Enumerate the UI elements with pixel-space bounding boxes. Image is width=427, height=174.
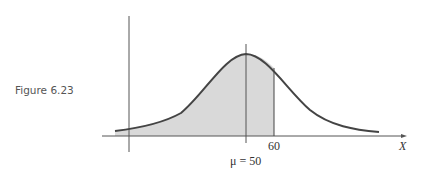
shaded-area	[115, 54, 274, 136]
tick-label-60: 60	[268, 139, 280, 154]
x-axis-label: X	[399, 139, 406, 154]
x-axis-arrow-icon	[401, 134, 407, 138]
normal-curve-chart	[0, 0, 427, 174]
mean-label: μ = 50	[230, 154, 261, 169]
